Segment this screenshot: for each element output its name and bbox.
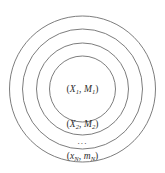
second-label-close-paren: ) [95,119,98,129]
inner-ring-label: (X1, M1) [0,85,165,95]
outer-label-variable-subscript: N [74,155,78,162]
inner-label-mass-subscript: 1 [92,88,95,95]
outer-label-close-paren: ) [95,151,98,161]
second-label-mass: M [84,119,92,129]
inner-label-close-paren: ) [95,84,98,94]
inner-label-variable-subscript: 1 [76,88,79,95]
outer-ring-label: (xN, mN) [0,152,165,162]
inner-label-mass: M [84,84,92,94]
outer-label-mass-subscript: N [91,155,95,162]
second-ring-label: (X2, M2) [0,120,165,130]
outer-label-mass: m [84,151,91,161]
second-label-variable-subscript: 2 [76,123,79,130]
second-label-variable: X [70,119,76,129]
ellipsis-label: ... [0,137,165,146]
inner-label-variable: X [70,84,76,94]
concentric-circles-figure: (X1, M1) (X2, M2) ... (xN, mN) [0,0,165,173]
second-label-mass-subscript: 2 [92,123,95,130]
